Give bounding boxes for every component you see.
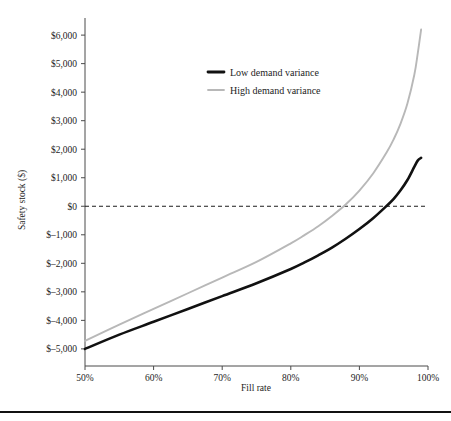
- chart-legend: Low demand varianceHigh demand variance: [208, 67, 321, 96]
- x-tick-label: 70%: [213, 373, 231, 383]
- y-tick-label: $4,000: [51, 88, 77, 98]
- chart-figure: $6,000$5,000$4,000$3,000$2,000$1,000$0$–…: [0, 0, 451, 421]
- y-tick-label: $–3,000: [46, 287, 77, 297]
- y-tick-label: $6,000: [51, 31, 77, 41]
- y-tick-label: $–4,000: [46, 316, 77, 326]
- x-tick-label: 60%: [145, 373, 163, 383]
- y-tick-label: $2,000: [51, 145, 77, 155]
- page-footer-rule: [0, 411, 451, 413]
- x-axis-ticks: 50%60%70%80%90%100%: [76, 366, 439, 383]
- y-tick-label: $0: [68, 202, 78, 212]
- x-tick-label: 50%: [76, 373, 94, 383]
- y-tick-label: $5,000: [51, 59, 77, 69]
- y-tick-label: $1,000: [51, 173, 77, 183]
- safety-stock-line-chart: $6,000$5,000$4,000$3,000$2,000$1,000$0$–…: [0, 0, 451, 421]
- y-tick-label: $–5,000: [46, 344, 77, 354]
- y-axis-title: Safety stock ($): [17, 170, 28, 230]
- y-axis-ticks: $6,000$5,000$4,000$3,000$2,000$1,000$0$–…: [46, 31, 85, 355]
- legend-label: High demand variance: [230, 85, 321, 96]
- series-line-low-demand-variance: [85, 158, 421, 349]
- x-tick-label: 100%: [417, 373, 439, 383]
- x-tick-label: 80%: [282, 373, 300, 383]
- x-tick-label: 90%: [351, 373, 369, 383]
- x-axis-title: Fill rate: [241, 383, 271, 393]
- y-tick-label: $–1,000: [46, 230, 77, 240]
- legend-label: Low demand variance: [230, 67, 319, 78]
- y-tick-label: $–2,000: [46, 259, 77, 269]
- y-tick-label: $3,000: [51, 116, 77, 126]
